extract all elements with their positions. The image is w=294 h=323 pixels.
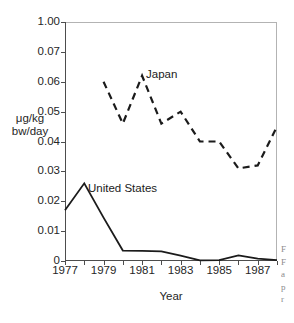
x-axis-tick-label: 1987 <box>236 264 280 277</box>
y-axis-tick-label: 0.01 <box>16 225 60 237</box>
y-axis-tick-label: 0.07 <box>16 46 60 58</box>
y-axis-tick-label: 1.00 <box>16 16 60 28</box>
series-line-japan <box>104 76 277 169</box>
y-axis-tick-mark <box>61 201 65 202</box>
x-axis-tick-label: 1979 <box>82 264 126 277</box>
adjacent-caption-fragment: FFapr <box>281 243 294 306</box>
y-axis-tick-mark <box>61 231 65 232</box>
x-axis-tick-label: 1977 <box>43 264 87 277</box>
x-axis-tick-label: 1983 <box>159 264 203 277</box>
x-axis-tick-labels: 197719791981198319851987 <box>65 264 277 280</box>
series-plot <box>65 22 277 261</box>
y-axis-title-line-2: bw/day <box>4 125 56 138</box>
caption-fragment-line: p <box>281 281 294 294</box>
series-annotation-japan: Japan <box>146 68 177 81</box>
y-axis-tick-mark <box>61 52 65 53</box>
x-axis-tick-label: 1985 <box>197 264 241 277</box>
caption-fragment-line: r <box>281 293 294 306</box>
y-axis-tick-mark <box>61 112 65 113</box>
y-axis-tick-mark <box>61 171 65 172</box>
y-axis-tick-label: 0.03 <box>16 165 60 177</box>
figure-chart: 1.000.070.060.050.040.030.020.010 μg/kg … <box>0 0 294 323</box>
y-axis-tick-label: 0.02 <box>16 195 60 207</box>
caption-fragment-line: F <box>281 243 294 256</box>
y-axis-tick-mark <box>61 82 65 83</box>
y-axis-title-line-1: μg/kg <box>4 112 56 125</box>
series-annotation-united-states: United States <box>88 182 157 195</box>
caption-fragment-line: F <box>281 256 294 269</box>
x-axis-title: Year <box>65 290 277 302</box>
y-axis-tick-mark <box>61 142 65 143</box>
caption-fragment-line: a <box>281 268 294 281</box>
y-axis-title: μg/kg bw/day <box>4 112 56 138</box>
x-axis-tick-label: 1981 <box>120 264 164 277</box>
y-axis-tick-mark <box>61 22 65 23</box>
y-axis-tick-label: 0.06 <box>16 76 60 88</box>
plot-area <box>65 22 277 261</box>
